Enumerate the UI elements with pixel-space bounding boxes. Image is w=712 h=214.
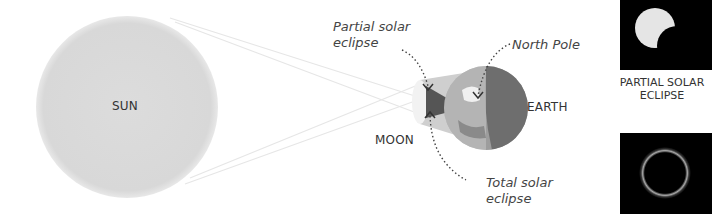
partial-note-line1: Partial solar <box>333 19 410 35</box>
north-pole-note: North Pole <box>512 37 580 53</box>
total-eclipse-note: Total solar eclipse <box>486 175 553 207</box>
partial-eclipse-caption: PARTIAL SOLAR ECLIPSE <box>612 76 712 102</box>
partial-note-line2: eclipse <box>333 35 410 51</box>
total-note-line2: eclipse <box>486 191 553 207</box>
caption-line1: PARTIAL SOLAR <box>612 76 712 89</box>
earth-icon <box>444 66 528 150</box>
sun-label: SUN <box>112 99 138 113</box>
partial-eclipse-note: Partial solar eclipse <box>333 19 410 51</box>
caption-line2: ECLIPSE <box>612 89 712 102</box>
moon-label: MOON <box>375 133 414 147</box>
total-note-line1: Total solar <box>486 175 553 191</box>
earth-label: EARTH <box>527 100 568 114</box>
